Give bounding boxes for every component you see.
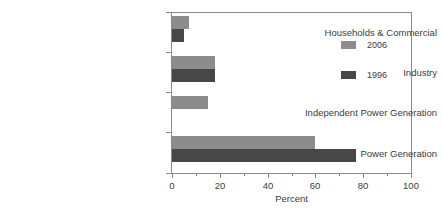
legend-label-2006: 2006: [367, 40, 387, 50]
x-axis-tick-0: [172, 173, 173, 178]
legend-entry-2006: 2006: [341, 40, 387, 50]
bar-1996-industry: [172, 69, 215, 82]
x-axis-minor-tick: [244, 173, 245, 176]
category-label-independent-power-generation: Independent Power Generation: [277, 107, 443, 118]
bar-2006-households-commercial: [172, 16, 189, 29]
x-axis-label-0: 0: [152, 180, 192, 191]
y-axis-tick: [166, 12, 172, 13]
bar-chart: Households & Commercial Industry Indepen…: [0, 0, 443, 213]
x-axis-tick-80: [363, 173, 364, 178]
y-axis-tick: [166, 132, 172, 133]
legend-swatch-1996-icon: [341, 71, 356, 79]
bar-1996-households-commercial: [172, 29, 184, 42]
y-axis-tick: [166, 92, 172, 93]
x-axis-tick-100: [411, 173, 412, 178]
x-axis-label-40: 40: [248, 180, 288, 191]
bar-2006-industry: [172, 56, 215, 69]
legend-swatch-2006-icon: [341, 41, 356, 49]
bar-1996-power-generation: [172, 149, 356, 162]
x-axis-label-20: 20: [200, 180, 240, 191]
x-axis-minor-tick: [196, 173, 197, 176]
x-axis-minor-tick: [339, 173, 340, 176]
x-axis-label-100: 100: [391, 180, 431, 191]
x-axis-label-60: 60: [295, 180, 335, 191]
x-axis-tick-20: [220, 173, 221, 178]
x-axis-minor-tick: [292, 173, 293, 176]
x-axis-tick-40: [268, 173, 269, 178]
category-label-households-commercial: Households & Commercial: [277, 27, 443, 38]
x-axis-tick-60: [315, 173, 316, 178]
legend-label-1996: 1996: [367, 70, 387, 80]
x-axis-label-80: 80: [343, 180, 383, 191]
y-axis-tick: [166, 52, 172, 53]
bar-2006-power-generation: [172, 136, 315, 149]
bar-2006-independent-power-generation: [172, 96, 208, 109]
legend-entry-1996: 1996: [341, 70, 387, 80]
x-axis-title: Percent: [172, 193, 411, 204]
x-axis-minor-tick: [387, 173, 388, 176]
